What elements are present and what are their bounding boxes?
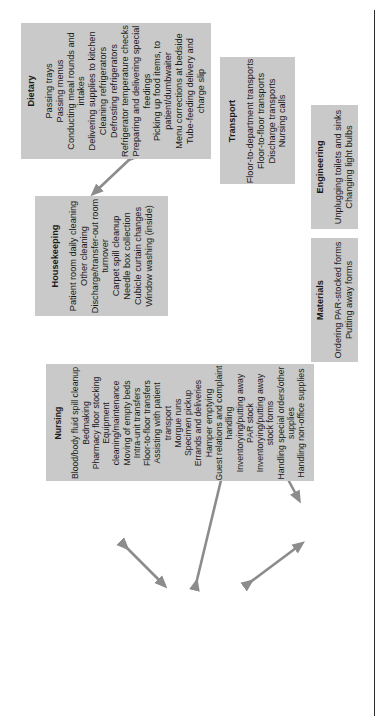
task-item: Carpet spill cleanup: [110, 197, 121, 315]
task-item: Hamper emptying: [204, 365, 214, 480]
task-item: Conducting meal rounds and intakes: [65, 24, 87, 158]
dept-box-dietary[interactable]: Dietary Passing trays Passing menus Cond…: [21, 23, 211, 159]
task-item: Defrosting refrigerators: [109, 24, 120, 158]
dept-box-materials[interactable]: Materials Ordering PAR-stocked forms Put…: [311, 238, 358, 362]
task-item: Patient room daily cleaning: [67, 197, 78, 315]
task-item: Floor-to-floor transfers: [142, 365, 152, 480]
task-item: Other cleaning: [78, 197, 89, 315]
task-item: Intra-unit transfers: [132, 365, 142, 480]
task-item: Morgue runs: [173, 365, 183, 480]
task-item: Putting away forms: [343, 242, 354, 359]
task-item: Floor-to-department transports: [245, 58, 256, 183]
arrow-nursing-materials: [249, 545, 300, 583]
task-item: Window washing (inside): [143, 197, 154, 315]
task-item: Passing trays: [43, 24, 54, 158]
task-item: Refrigerator temperature checks: [120, 24, 131, 158]
task-item: Picking up food items, to patient/dumbwa…: [152, 24, 174, 158]
task-item: Pharmacy floor stocking: [91, 365, 101, 480]
task-item: Discharge transports: [266, 58, 277, 183]
dept-task-list-dietary: Passing trays Passing menus Conducting m…: [43, 24, 206, 158]
task-item: Assisting with patient transport: [153, 365, 174, 480]
task-item: Nursing calls: [277, 58, 288, 183]
task-item: Inventorying/putting away stock forms: [255, 365, 276, 480]
page-gutter-rule: [374, 10, 375, 716]
dept-task-list-materials: Ordering PAR-stocked forms Putting away …: [333, 242, 355, 359]
task-item: Floor-to-floor transports: [256, 58, 267, 183]
dept-title-materials: Materials: [315, 280, 326, 320]
task-item: Needle box collection: [121, 197, 132, 315]
task-item: Handling non-office supplies: [296, 365, 306, 480]
task-item: Equipment cleaning/maintenance: [101, 365, 122, 480]
task-item: Delivering supplies to kitchen: [87, 24, 98, 158]
task-item: Cleaning refrigerators: [98, 24, 109, 158]
task-item: Errands and deliveries: [194, 365, 204, 480]
task-item: Ordering PAR-stocked forms: [333, 242, 344, 359]
task-item: Cubicle curtain changes: [132, 197, 143, 315]
dept-task-list-nursing: Blood/body fluid spill cleanup Bedmaking…: [71, 365, 307, 480]
dept-title-transport: Transport: [227, 99, 238, 141]
dept-title-nursing: Nursing: [53, 406, 63, 439]
task-item: Passing menus: [54, 24, 65, 158]
task-item: Moving of empty beds: [122, 365, 132, 480]
task-item: Specimen pickup: [184, 365, 194, 480]
task-item: Unplugging toilets and sinks: [333, 110, 344, 224]
dept-title-dietary: Dietary: [26, 75, 37, 106]
task-item: Preparing and delivering special feeding…: [130, 24, 152, 158]
task-item: Discharge/transfer-out room turnover: [89, 197, 111, 315]
dept-box-transport[interactable]: Transport Floor-to-department transports…: [220, 57, 295, 184]
dept-box-engineering[interactable]: Engineering Unplugging toilets and sinks…: [311, 105, 358, 229]
dept-title-engineering: Engineering: [315, 140, 326, 193]
task-item: Bedmaking: [81, 365, 91, 480]
task-item: Guest relations and complaint handling: [214, 365, 235, 480]
dept-task-list-transport: Floor-to-department transports Floor-to-…: [245, 58, 288, 183]
dept-task-list-housekeeping: Patient room daily cleaning Other cleani…: [67, 197, 154, 315]
dept-box-nursing[interactable]: Nursing Blood/body fluid spill cleanup B…: [46, 364, 314, 481]
dept-task-list-engineering: Unplugging toilets and sinks Changing li…: [333, 110, 355, 224]
task-item: Handling special orders/other supplies: [276, 365, 297, 480]
dept-title-housekeeping: Housekeeping: [49, 225, 60, 288]
task-item: Tube-feeding delivery and charge slip: [185, 24, 207, 158]
task-item: Blood/body fluid spill cleanup: [71, 365, 81, 480]
diagram-canvas: Dietary Passing trays Passing menus Cond…: [0, 0, 387, 727]
dept-box-housekeeping[interactable]: Housekeeping Patient room daily cleaning…: [35, 196, 168, 316]
task-item: Changing light bulbs: [343, 110, 354, 224]
arrow-dietary-housekeeping: [95, 158, 131, 192]
task-item: Inventorying/putting away PAR stock: [235, 365, 256, 480]
task-item: Menu corrections at bedside: [174, 24, 185, 158]
arrow-housekeeping-nursing: [125, 546, 163, 584]
